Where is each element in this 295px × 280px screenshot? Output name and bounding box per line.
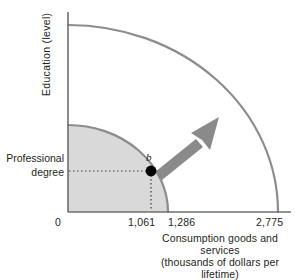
x-tick-label-1061: 1,061 xyxy=(128,216,155,228)
x-axis-title: Consumption goods and services (thousand… xyxy=(145,232,295,280)
y-axis-title: Education (level) xyxy=(40,13,52,96)
growth-arrow xyxy=(155,117,219,180)
x-tick-label-1286: 1,286 xyxy=(168,216,195,228)
y-tick-label-line1: Professional xyxy=(6,152,64,164)
y-tick-label-line2: degree xyxy=(31,166,64,178)
x-tick-label-2775: 2,775 xyxy=(256,216,283,228)
point-b-label: b xyxy=(146,151,152,164)
x-tick-label-0: 0 xyxy=(55,216,61,228)
y-tick-label-professional-degree: Professional degree xyxy=(2,151,64,179)
x-axis-title-line1: Consumption goods and services xyxy=(162,232,278,256)
point-b-marker xyxy=(146,166,157,177)
x-axis-title-line2: (thousands of dollars per lifetime) xyxy=(145,256,295,280)
